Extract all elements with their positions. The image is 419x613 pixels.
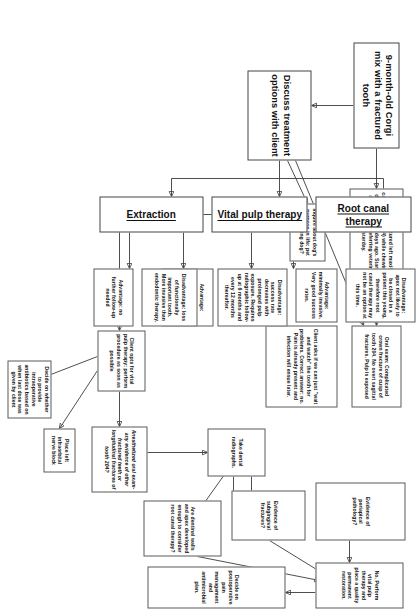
node-case-title[interactable]: 9-month-old Corgi mix with a fractured t… [353, 42, 399, 148]
node-evidence-periapical[interactable]: Evidence of periapical pathology? [315, 482, 405, 540]
node-dentinal-walls[interactable]: Are dentinal walls and apex developed en… [143, 500, 221, 556]
node-anesthetized-exam[interactable]: Anesthetized oral exam- any evidence of … [91, 426, 147, 492]
node-ext-disadvantage[interactable]: Disadvantage: loss of functionally impor… [141, 268, 197, 326]
node-rct-disadvantage[interactable]: Disadvantage: apex not likely to be clos… [345, 268, 415, 322]
node-postop-plan[interactable]: Decide on postoperative pain management … [147, 566, 285, 608]
flowchart-canvas: 9-month-old Corgi mix with a fractured t… [0, 0, 419, 613]
stage-root-canal-therapy[interactable]: Root canal therapy [315, 196, 411, 232]
node-evidence-subgingival[interactable]: Evidence of subgingival fractures? [231, 490, 305, 540]
node-oral-exam[interactable]: Oral exam: Complicated crown fracture of… [351, 325, 401, 407]
node-nerve-block[interactable]: Place left infraorbital nerve block [43, 428, 75, 472]
stage-vital-pulp-therapy[interactable]: Vital pulp therapy [211, 196, 307, 232]
flowchart-viewport: 9-month-old Corgi mix with a fractured t… [0, 0, 419, 613]
node-take-radiographs[interactable]: Take dental radiographs. [207, 428, 265, 476]
stage-extraction[interactable]: Extraction [99, 196, 203, 232]
node-intraop-antibiotics[interactable]: Decide on whether to provide intraoperat… [7, 360, 51, 418]
node-discuss-options[interactable]: Discuss treatment options with client [247, 70, 311, 160]
node-client-asks[interactable]: Client asks if we can just "wait and wat… [265, 325, 337, 407]
node-perform-vpt[interactable]: No. Perform vital pulp therapy and place… [315, 562, 403, 608]
node-ext-advantage[interactable]: Advantage: no further follow-up needed [93, 268, 133, 326]
node-client-opts[interactable]: Client opts for vital pulp therapy: perf… [97, 330, 145, 391]
node-rct-advantage[interactable]: Advantage: minimally invasive. Very good… [295, 268, 337, 322]
node-vpt-disadvantage[interactable]: Disadvantage: success rate decreases wit… [217, 268, 287, 326]
